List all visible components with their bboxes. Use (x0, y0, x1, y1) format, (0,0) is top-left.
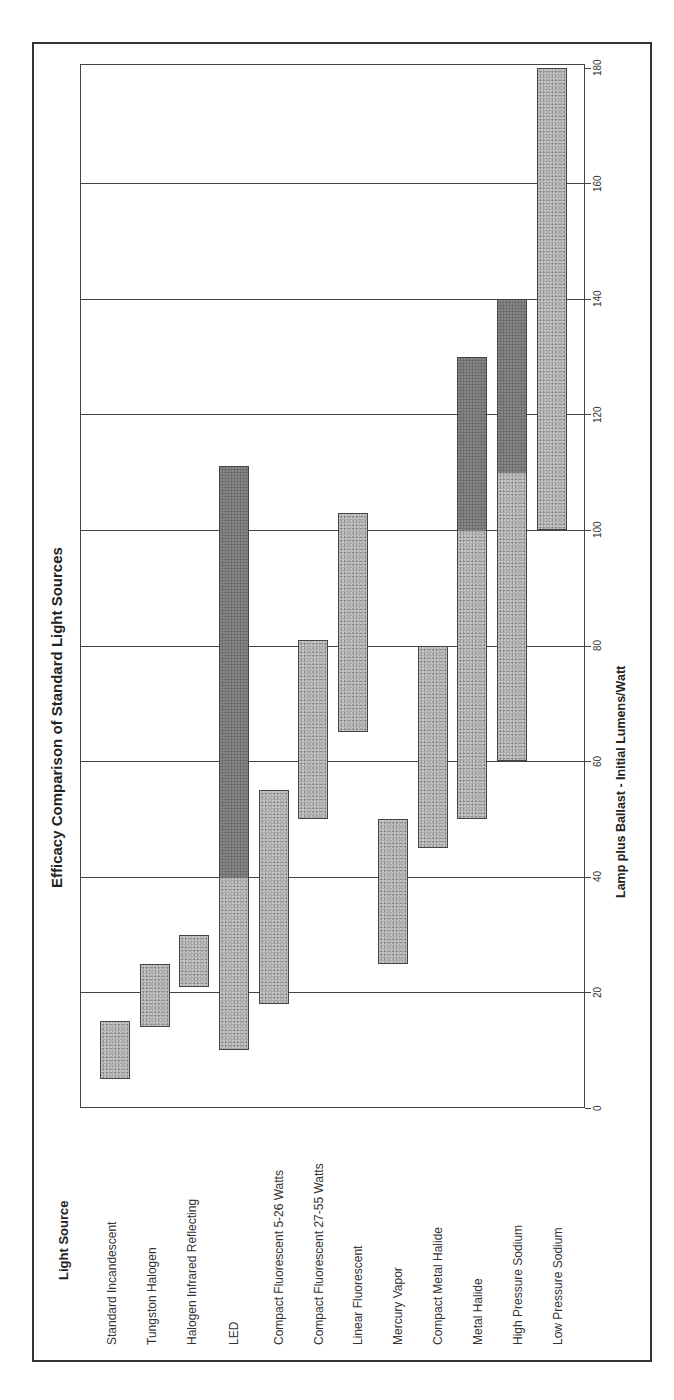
range-bar (219, 466, 249, 1050)
category-label: Standard Incandescent (105, 1222, 119, 1345)
tick-mark (585, 299, 591, 300)
range-bar (537, 68, 567, 530)
range-bar-dark-segment (220, 467, 248, 877)
tick-label: 40 (592, 871, 603, 882)
category-label: Metal Halide (471, 1278, 485, 1345)
tick-mark (585, 646, 591, 647)
tick-label: 160 (592, 175, 603, 192)
category-label: LED (227, 1322, 241, 1345)
tick-label: 180 (592, 59, 603, 76)
chart-title: Efficacy Comparison of Standard Light So… (48, 547, 65, 888)
range-bar (259, 790, 289, 1004)
category-label: Low Pressure Sodium (551, 1228, 565, 1345)
range-bar (298, 640, 328, 819)
gridline (80, 877, 585, 878)
range-bar-dark-segment (498, 300, 526, 473)
tick-mark (585, 1108, 591, 1109)
tick-mark (585, 414, 591, 415)
tick-mark (585, 992, 591, 993)
range-bar (418, 646, 448, 848)
x-axis-label: Lamp plus Ballast - Initial Lumens/Watt (614, 666, 628, 898)
category-label: Tungston Halogen (145, 1247, 159, 1345)
range-bar (497, 299, 527, 761)
category-label: High Pressure Sodium (511, 1225, 525, 1345)
range-bar (338, 513, 368, 733)
tick-label: 20 (592, 987, 603, 998)
category-label: Halogen Infrared Reflecting (185, 1199, 199, 1345)
range-bar-dark-segment (458, 358, 486, 531)
category-label: Linear Fluorescent (351, 1246, 365, 1345)
tick-mark (585, 761, 591, 762)
tick-mark (585, 877, 591, 878)
tick-mark (585, 183, 591, 184)
tick-label: 0 (592, 1105, 603, 1111)
gridline (80, 183, 585, 184)
tick-mark (585, 68, 591, 69)
category-label: Compact Metal Halide (431, 1227, 445, 1345)
gridline (80, 761, 585, 762)
range-bar (100, 1021, 130, 1079)
category-label: Mercury Vapor (391, 1267, 405, 1345)
category-header: Light Source (56, 1201, 71, 1280)
tick-mark (585, 530, 591, 531)
range-bar (457, 357, 487, 819)
tick-label: 120 (592, 406, 603, 423)
tick-label: 60 (592, 756, 603, 767)
range-bar (378, 819, 408, 964)
tick-label: 140 (592, 291, 603, 308)
range-bar (179, 935, 209, 987)
tick-label: 100 (592, 522, 603, 539)
category-label: Compact Fluorescent 27-55 Watts (312, 1163, 326, 1345)
tick-label: 80 (592, 640, 603, 651)
range-bar (140, 964, 170, 1028)
category-label: Compact Fluorescent 5-26 Watts (272, 1170, 286, 1345)
